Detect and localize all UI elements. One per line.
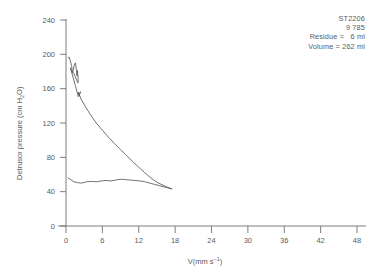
- annotation-patient-id: ST2206: [308, 14, 365, 23]
- annotation-study-number: 9 785: [308, 23, 365, 32]
- series-line-detrusor-pressure-descending-limb: [68, 57, 171, 188]
- y-tick-label: 120: [42, 119, 55, 128]
- x-tick-label: 6: [100, 236, 104, 245]
- series-line-detrusor-pressure-flat-limb: [68, 178, 172, 189]
- study-annotation-block: ST2206 9 785 Residue = 6 ml Volume = 262…: [308, 14, 365, 51]
- x-axis-tick-labels: 0612182430364248: [64, 236, 361, 245]
- annotation-volume-value: 262 ml: [342, 42, 365, 51]
- y-axis-ticks: [60, 20, 66, 226]
- y-tick-label: 240: [42, 16, 55, 25]
- y-axis-title: Detrusor pressure (cm H2O): [15, 86, 25, 180]
- x-tick-label: 36: [280, 236, 288, 245]
- x-tick-label: 42: [316, 236, 324, 245]
- y-tick-label: 200: [42, 50, 55, 59]
- x-tick-label: 48: [353, 236, 361, 245]
- x-tick-label: 18: [171, 236, 179, 245]
- annotation-residue-value: 6 ml: [351, 32, 365, 41]
- y-axis-tick-labels: 04080120160200240: [42, 16, 55, 231]
- y-tick-label: 40: [47, 187, 55, 196]
- x-axis-ticks: [66, 226, 357, 233]
- x-tick-label: 30: [244, 236, 252, 245]
- x-tick-label: 24: [207, 236, 215, 245]
- x-axis-title: V(mm s−1): [188, 256, 223, 266]
- chart-figure: 04080120160200240 0612182430364248 Detru…: [0, 0, 373, 279]
- x-tick-label: 12: [135, 236, 143, 245]
- y-tick-label: 160: [42, 84, 55, 93]
- annotation-volume-label: Volume =: [308, 42, 340, 51]
- y-tick-label: 80: [47, 153, 55, 162]
- annotation-residue-label: Residue =: [310, 32, 344, 41]
- data-series-group: [68, 57, 172, 189]
- y-tick-label: 0: [51, 222, 55, 231]
- annotation-residue: Residue = 6 ml: [308, 32, 365, 41]
- annotation-volume: Volume = 262 ml: [308, 42, 365, 51]
- x-tick-label: 0: [64, 236, 68, 245]
